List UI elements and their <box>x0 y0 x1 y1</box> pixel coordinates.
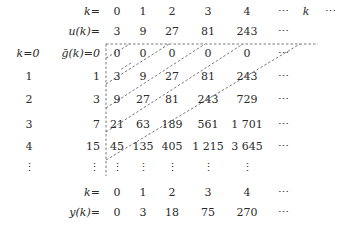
grid-cell: 135 <box>133 140 154 153</box>
grid-cell: ⋮ <box>242 161 253 174</box>
grid-cell: ⋮ <box>203 161 214 174</box>
header-k-k: k <box>303 5 310 18</box>
footer-y-0: 0 <box>114 206 121 219</box>
footer-k-2: 2 <box>169 186 176 199</box>
grid-cell: 45 <box>110 140 124 153</box>
left-index-vdots: ⋮ <box>24 161 35 174</box>
footer-k-3: 3 <box>205 186 212 199</box>
footer-k-4: 4 <box>244 186 251 199</box>
header-u-0: 3 <box>114 25 121 38</box>
left-index-2: 2 <box>26 93 33 106</box>
g-value-2: 3 <box>93 93 100 106</box>
footer-k-1: 1 <box>140 186 147 199</box>
grid-cell: ⋮ <box>167 161 178 174</box>
grid-cell: ⋮ <box>112 161 123 174</box>
left-index-1: 1 <box>26 70 33 83</box>
grid-cell: 9 <box>114 93 121 106</box>
grid-cell: 243 <box>198 93 219 106</box>
footer-y-label: y(k)= <box>69 206 100 219</box>
header-k-3: 3 <box>205 5 212 18</box>
grid-cell: ⋯ <box>278 93 289 106</box>
header-u-ellipsis: ⋯ <box>278 25 289 38</box>
grid-cell: 1 215 <box>192 140 224 153</box>
footer-k-0: 0 <box>114 186 121 199</box>
grid-cell: 81 <box>165 93 179 106</box>
header-k-1: 1 <box>140 5 147 18</box>
footer-y-2: 18 <box>165 206 179 219</box>
header-u-3: 81 <box>201 25 215 38</box>
grid-cell: ⋯ <box>278 118 289 131</box>
grid-cell: ⋯ <box>278 70 289 83</box>
grid-cell: 27 <box>136 93 150 106</box>
grid-cell: ⋯ <box>278 47 289 60</box>
footer-y-3: 75 <box>201 206 215 219</box>
header-k-ellipsis-2: ⋯ <box>325 5 336 18</box>
grid-cell: 405 <box>162 140 183 153</box>
footer-k-ellipsis: ⋯ <box>278 186 289 199</box>
header-k-ellipsis: ⋯ <box>278 5 289 18</box>
left-index-3: 3 <box>26 118 33 131</box>
grid-cell: 1 701 <box>231 118 263 131</box>
grid-cell: ⋯ <box>278 140 289 153</box>
left-index-4: 4 <box>26 140 33 153</box>
header-u-4: 243 <box>237 25 258 38</box>
g-label: ḡ(k)=0 <box>61 47 100 60</box>
grid-cell: 0 <box>169 47 176 60</box>
grid-cell: 729 <box>237 93 258 106</box>
grid-cell: 27 <box>165 70 179 83</box>
footer-y-4: 270 <box>237 206 258 219</box>
grid-cell: 81 <box>201 70 215 83</box>
header-u-2: 27 <box>165 25 179 38</box>
grid-cell: 561 <box>198 118 219 131</box>
grid-cell: 9 <box>140 70 147 83</box>
grid-cell: 3 <box>114 70 121 83</box>
g-value-4: 15 <box>86 140 100 153</box>
grid-cell: 189 <box>162 118 183 131</box>
header-k-2: 2 <box>169 5 176 18</box>
header-k-label: k= <box>84 5 100 18</box>
grid-cell: ⋮ <box>138 161 149 174</box>
header-u-1: 9 <box>140 25 147 38</box>
grid-cell: 243 <box>237 70 258 83</box>
footer-y-1: 3 <box>140 206 147 219</box>
grid-cell: 3 645 <box>231 140 263 153</box>
grid-cell: 0 <box>140 47 147 60</box>
header-k-4: 4 <box>244 5 251 18</box>
footer-k-label: k= <box>84 186 100 199</box>
header-k-0: 0 <box>114 5 121 18</box>
grid-cell: 0 <box>244 47 251 60</box>
grid-cell: 0 <box>205 47 212 60</box>
grid-cell: 63 <box>136 118 150 131</box>
g-value-3: 7 <box>93 118 100 131</box>
g-value-1: 1 <box>93 70 100 83</box>
grid-cell: 0 <box>114 47 121 60</box>
g-value-vdots: ⋮ <box>89 161 100 174</box>
grid-cell: 21 <box>110 118 124 131</box>
footer-y-ellipsis: ⋯ <box>278 206 289 219</box>
left-index-0: k=0 <box>17 47 40 60</box>
header-u-label: u(k)= <box>68 25 100 38</box>
